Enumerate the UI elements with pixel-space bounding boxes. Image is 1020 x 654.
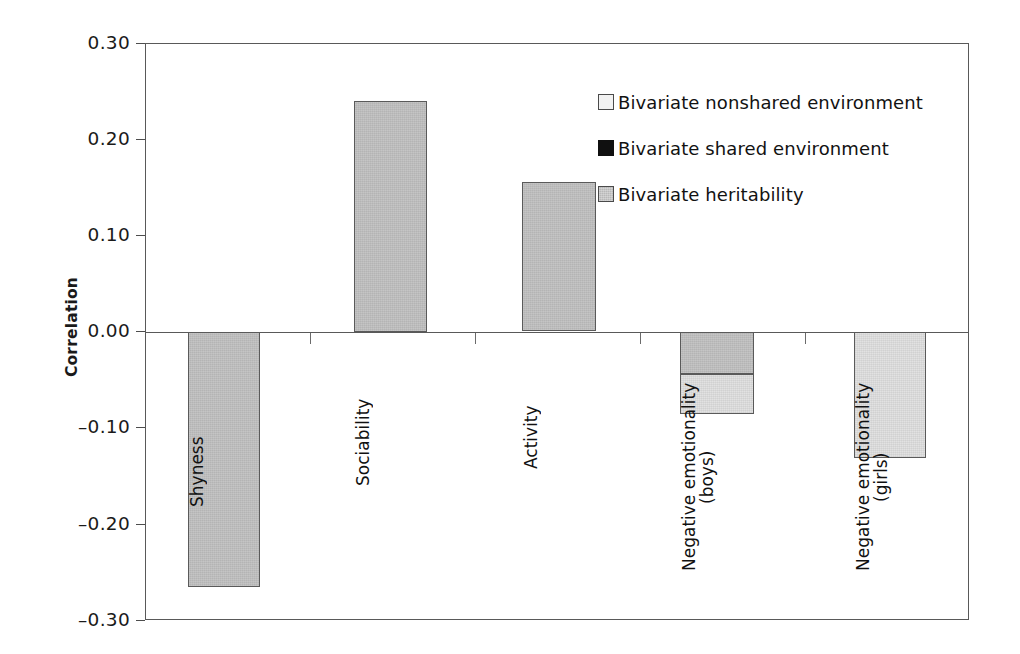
y-tick-label-0: 0.30 bbox=[44, 34, 130, 53]
y-tick-label-1: 0.20 bbox=[44, 130, 130, 149]
legend-label-shared-environment: Bivariate shared environment bbox=[618, 138, 889, 159]
category-label-line2: (boys) bbox=[697, 450, 717, 503]
category-label-negative-emotionality-girls: Negative emotionality(girls) bbox=[854, 342, 926, 612]
category-label-line1: Negative emotionality bbox=[853, 383, 873, 571]
bar-activity-heritability[interactable] bbox=[522, 182, 596, 331]
y-axis-tick-labels: 0.30 0.20 0.10 0.00 –0.10 –0.20 –0.30 bbox=[0, 0, 130, 654]
y-tick-mark-5 bbox=[136, 524, 145, 525]
legend-swatch-black-icon bbox=[598, 140, 614, 156]
y-tick-label-3: 0.00 bbox=[44, 322, 130, 341]
y-tick-mark-6 bbox=[136, 620, 145, 621]
y-tick-mark-1 bbox=[136, 139, 145, 140]
y-tick-mark-2 bbox=[136, 235, 145, 236]
category-label-negative-emotionality-boys: Negative emotionality(boys) bbox=[680, 342, 754, 612]
chart-legend: Bivariate nonshared environment Bivariat… bbox=[598, 79, 958, 217]
plot-area: Shyness Sociability Activity Negative em… bbox=[145, 43, 969, 620]
legend-item-heritability[interactable]: Bivariate heritability bbox=[598, 171, 958, 217]
y-tick-mark-3 bbox=[136, 331, 145, 332]
category-label-line1: Negative emotionality bbox=[679, 383, 699, 571]
bar-chart-figure: Correlation 0.30 0.20 0.10 0.00 –0.10 –0… bbox=[0, 0, 1020, 654]
y-tick-mark-4 bbox=[136, 427, 145, 428]
y-tick-label-2: 0.10 bbox=[44, 226, 130, 245]
category-label-activity: Activity bbox=[522, 342, 596, 532]
y-tick-label-4: –0.10 bbox=[44, 418, 130, 437]
category-label-line2: (girls) bbox=[871, 452, 891, 501]
legend-label-nonshared-environment: Bivariate nonshared environment bbox=[618, 92, 923, 113]
legend-swatch-gray-icon bbox=[598, 186, 614, 202]
legend-item-shared-environment[interactable]: Bivariate shared environment bbox=[598, 125, 958, 171]
category-label-sociability: Sociability bbox=[354, 342, 427, 542]
legend-swatch-white-icon bbox=[598, 94, 614, 110]
y-tick-label-6: –0.30 bbox=[44, 611, 130, 630]
bar-sociability-heritability[interactable] bbox=[354, 101, 427, 332]
legend-item-nonshared-environment[interactable]: Bivariate nonshared environment bbox=[598, 79, 958, 125]
y-tick-mark-0 bbox=[136, 43, 145, 44]
category-label-shyness: Shyness bbox=[188, 342, 260, 602]
y-tick-label-5: –0.20 bbox=[44, 515, 130, 534]
bar-group-shyness: Shyness bbox=[146, 44, 311, 619]
bar-group-sociability: Sociability bbox=[311, 44, 476, 619]
legend-label-heritability: Bivariate heritability bbox=[618, 184, 804, 205]
